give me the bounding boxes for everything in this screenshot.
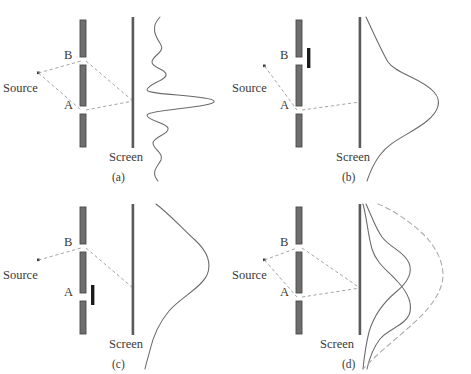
barrier-c [80, 207, 86, 334]
panel-d: B A Source Screen (d) [236, 187, 471, 374]
ray-source-to-b [39, 248, 82, 260]
single-slit-curve [145, 204, 209, 369]
screen-label: Screen [109, 151, 143, 164]
ray-source-to-b [39, 61, 82, 73]
slit-label-b: B [280, 236, 288, 249]
slit-label-a: A [64, 99, 73, 112]
ray-b-to-screen [86, 248, 133, 288]
screen-label: Screen [109, 338, 143, 351]
single-slit-curve [366, 17, 438, 181]
source-label: Source [3, 82, 38, 95]
ray-a-to-screen [86, 101, 133, 110]
panel-caption-c: (c) [112, 359, 125, 371]
panel-caption-b: (b) [342, 172, 355, 184]
barrier-segment-bottom [80, 114, 86, 147]
slit-label-b: B [64, 236, 72, 249]
panel-caption-a: (a) [112, 172, 125, 184]
panel-caption-d: (d) [342, 359, 355, 371]
slit-label-a: A [64, 286, 73, 299]
panel-a: B A Source Screen (a) [0, 0, 236, 187]
single-slit-curve-a [363, 204, 410, 369]
slit-label-a: A [280, 99, 289, 112]
screen-line [359, 17, 362, 148]
slit-a-blocker [91, 285, 94, 305]
barrier-segment-middle [80, 65, 86, 106]
barrier-segment-bottom [296, 114, 302, 147]
screen-label: Screen [336, 151, 370, 164]
panel-b: B A Source Screen (b) [236, 0, 471, 187]
screen-line [359, 204, 362, 335]
ray-b-to-screen [302, 248, 360, 288]
barrier-b [296, 20, 302, 147]
slit-label-b: B [280, 49, 288, 62]
ray-group [265, 248, 361, 297]
barrier-segment-top [296, 20, 302, 57]
slit-label-b: B [64, 49, 72, 62]
barrier-segment-middle [296, 65, 302, 106]
ray-group [265, 66, 361, 110]
source-label: Source [3, 269, 38, 282]
screen-line [132, 17, 135, 148]
ray-source-to-b [265, 248, 298, 260]
screen-label: Screen [320, 338, 354, 351]
barrier-segment-bottom [296, 301, 302, 334]
barrier-segment-top [80, 20, 86, 57]
ray-b-to-screen [86, 61, 133, 101]
two-slit-figure: B A Source Screen (a) B A Sour [0, 0, 471, 374]
slit-b-blocker [307, 48, 310, 68]
sum-curve-dashed [363, 204, 443, 369]
ray-a-to-screen [302, 102, 360, 110]
slit-label-a: A [280, 286, 289, 299]
panel-c: B A Source Screen (c) [0, 187, 236, 374]
barrier-a [80, 20, 86, 147]
interference-curve [147, 17, 214, 181]
ray-a-to-screen [302, 288, 360, 297]
ray-source-to-a [39, 73, 82, 110]
barrier-segment-bottom [80, 301, 86, 334]
screen-line [132, 204, 135, 335]
barrier-segment-top [296, 207, 302, 244]
barrier-segment-middle [80, 252, 86, 293]
barrier-d [296, 207, 302, 334]
source-label: Source [232, 82, 267, 95]
single-slit-curve-b [363, 204, 410, 369]
source-label: Source [232, 269, 267, 282]
barrier-segment-top [80, 207, 86, 244]
barrier-segment-middle [296, 252, 302, 293]
